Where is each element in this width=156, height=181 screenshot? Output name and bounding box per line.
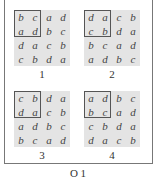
grid-cell: d [28, 119, 42, 133]
grid-cell: b [84, 38, 98, 52]
highlight-box [84, 10, 111, 37]
grid-cell: a [42, 10, 56, 24]
grid-cell: a [84, 52, 98, 66]
letter-grid: bcadadbcdacbcbda [14, 10, 70, 66]
grid-cell: d [42, 91, 56, 105]
grid-cell: d [112, 119, 126, 133]
latin-square-panel-1: bcadadbcdacbcbda [14, 10, 70, 66]
grid-cell: b [42, 24, 56, 38]
grid-cell: b [28, 52, 42, 66]
grid-cell: b [98, 119, 112, 133]
grid-cell: d [126, 38, 140, 52]
grid-cell: b [56, 38, 70, 52]
grid-cell: c [112, 133, 126, 147]
grid-cell: b [42, 119, 56, 133]
grid-cell: d [84, 133, 98, 147]
grid-cell: d [98, 52, 112, 66]
grid-cell: a [14, 119, 28, 133]
grid-cell: b [56, 105, 70, 119]
grid-cell: d [14, 38, 28, 52]
grid-cell: d [56, 133, 70, 147]
latin-square-panel-2: dacbcbdabcadadbc [84, 10, 140, 66]
grid-cell: c [126, 52, 140, 66]
grid-cell: a [112, 105, 126, 119]
highlight-box [14, 91, 41, 118]
grid-cell: c [84, 119, 98, 133]
grid-cell: a [126, 24, 140, 38]
letter-grid: dacbcbdabcadadbc [84, 10, 140, 66]
grid-cell: a [126, 119, 140, 133]
grid-cell: a [56, 52, 70, 66]
grid-cell: d [112, 24, 126, 38]
grid-cell: d [56, 10, 70, 24]
grid-cell: a [42, 133, 56, 147]
grid-cell: c [126, 91, 140, 105]
highlight-box [14, 10, 41, 37]
grid-cell: c [42, 38, 56, 52]
grid-cell: b [126, 10, 140, 24]
grid-cell: c [56, 119, 70, 133]
letter-grid: adbcbcadcbdadacb [84, 91, 140, 147]
panel-label: 4 [84, 149, 140, 161]
grid-cell: c [112, 10, 126, 24]
grid-cell: b [14, 133, 28, 147]
grid-cell: b [112, 52, 126, 66]
latin-square-panel-4: adbcbcadcbdadacb [84, 91, 140, 147]
panel-label: 2 [84, 68, 140, 80]
figure-caption: O 1 [0, 167, 156, 179]
latin-square-panel-3: cbdadacbadbcbcad [14, 91, 70, 147]
highlight-box [84, 91, 111, 118]
grid-cell: d [42, 52, 56, 66]
grid-cell: c [98, 38, 112, 52]
grid-cell: b [126, 133, 140, 147]
panel-label: 3 [14, 149, 70, 161]
grid-cell: d [126, 105, 140, 119]
grid-cell: c [56, 24, 70, 38]
grid-cell: b [112, 91, 126, 105]
grid-cell: c [14, 52, 28, 66]
grid-cell: a [28, 38, 42, 52]
grid-cell: a [112, 38, 126, 52]
letter-grid: cbdadacbadbcbcad [14, 91, 70, 147]
grid-cell: c [42, 105, 56, 119]
grid-cell: a [98, 133, 112, 147]
grid-cell: a [56, 91, 70, 105]
grid-cell: c [28, 133, 42, 147]
panel-label: 1 [14, 68, 70, 80]
